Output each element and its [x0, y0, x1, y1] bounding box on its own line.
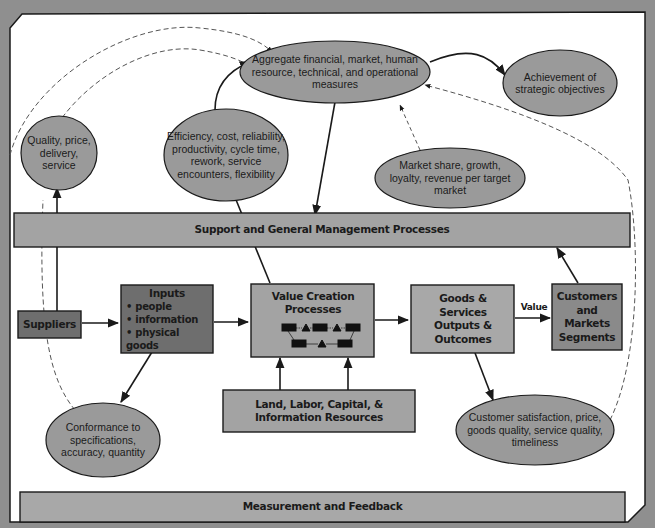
value-arrow-label: Value [518, 302, 550, 314]
inputs-item: information [126, 313, 214, 326]
goods-services-label: Goods & Services Outputs & Outcomes [418, 287, 508, 351]
inputs-item: people [126, 300, 214, 313]
market-share-label: Market share, growth, loyalty, revenue p… [385, 155, 515, 201]
quality-label: Quality, price, delivery, service [26, 122, 92, 184]
suppliers-label: Suppliers [18, 311, 81, 338]
measurement-bar-label: Measurement and Feedback [20, 492, 625, 522]
inputs-item: physical goods [126, 326, 214, 352]
support-bar-label: Support and General Management Processes [14, 213, 630, 247]
diagram-frame: Aggregate financial, market, human resou… [0, 0, 655, 528]
value-creation-label: Value Creation Processes [268, 287, 358, 319]
aggregate-measures-label: Aggregate financial, market, human resou… [245, 46, 425, 98]
efficiency-label: Efficiency, cost, reliability, productiv… [166, 112, 286, 198]
strategic-objectives-label: Achievement of strategic objectives [510, 58, 610, 108]
customer-satisfaction-label: Customer satisfaction, price, goods qual… [466, 400, 604, 460]
resources-label: Land, Labor, Capital, & Information Reso… [228, 391, 410, 431]
customers-label: Customers and Markets Segments [554, 286, 620, 348]
inputs-list: people information physical goods [126, 303, 214, 349]
conformance-label: Conformance to specifications, accuracy,… [55, 408, 151, 472]
